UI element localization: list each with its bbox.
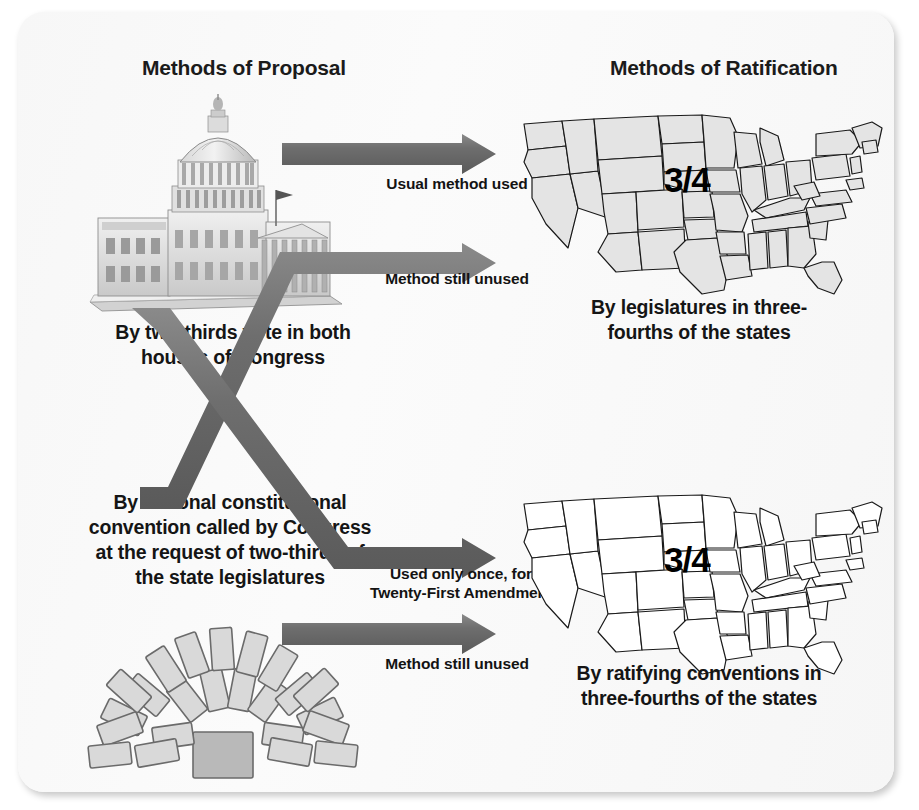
arrow-assembly-to-ratifying-conventions [282,614,496,654]
map-fraction-top: 3/4 [664,160,710,200]
arrow-congress-to-ratifying-conventions [132,308,496,578]
caption-by-ratifying-conventions: By ratifying conventions in three-fourth… [574,661,824,711]
diagram-card: Methods of Proposal Methods of Ratificat… [18,12,894,792]
map-fraction-bottom: 3/4 [664,540,710,580]
us-map-conventions-icon [516,492,894,677]
diagram-canvas: Methods of Proposal Methods of Ratificat… [0,0,919,810]
caption-by-legislatures: By legislatures in three-fourths of the … [574,295,824,345]
arrow-congress-to-legislatures [282,134,496,174]
us-map-legislatures-icon [516,112,894,297]
